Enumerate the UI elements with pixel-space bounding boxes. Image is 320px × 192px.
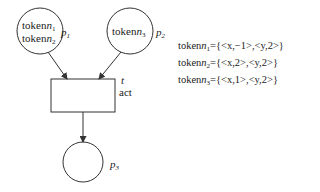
token-definition-3: tokenn3={<x,1>,<y,2>} [178, 74, 278, 89]
place-p3 [63, 142, 103, 182]
p3-label: p3 [110, 158, 119, 174]
arc-p1-t [48, 52, 67, 79]
transition-t [51, 79, 115, 112]
arc-p2-t [99, 52, 121, 79]
p1-label: p1 [61, 26, 70, 42]
transition-name: t [121, 74, 124, 86]
token-definition-2: tokenn2={<x,2>,<y,2>} [178, 57, 278, 72]
p2-token-1: tokenn3 [112, 25, 145, 41]
token-definition-1: tokenn1={<x,−1>,<y,2>} [178, 40, 284, 55]
p2-label: p2 [156, 26, 165, 42]
p1-token-2: tokenn2 [22, 32, 55, 48]
transition-action: act [119, 86, 132, 98]
